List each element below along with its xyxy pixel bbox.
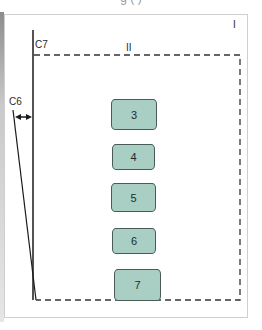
region-ii-boundary bbox=[34, 55, 240, 300]
label-region-ii: II bbox=[126, 43, 132, 53]
vertebra-box-6: 6 bbox=[112, 228, 156, 254]
vertebra-box-7: 7 bbox=[114, 269, 161, 301]
vertebra-box-3: 3 bbox=[111, 99, 157, 130]
label-c7: C7 bbox=[35, 40, 48, 50]
arrow-head-left-icon bbox=[15, 114, 21, 120]
vertebra-box-5: 5 bbox=[111, 183, 156, 212]
arrow-head-right-icon bbox=[26, 114, 32, 120]
vertebra-box-4: 4 bbox=[112, 144, 155, 170]
label-region-i: I bbox=[233, 20, 236, 30]
label-c6: C6 bbox=[9, 97, 22, 107]
